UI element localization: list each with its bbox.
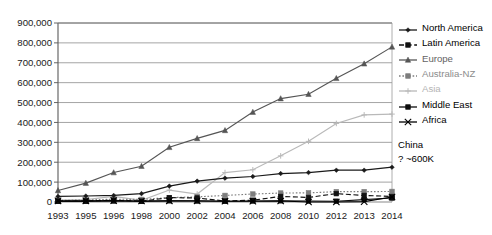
- data-point-marker: [139, 163, 144, 168]
- data-point-marker: [222, 128, 227, 133]
- x-axis-tick-label: 2008: [270, 210, 291, 221]
- data-point-marker: [306, 191, 311, 196]
- data-point-marker: [406, 104, 411, 109]
- series-line: [58, 47, 392, 191]
- data-point-marker: [389, 111, 395, 117]
- legend-item-label: Africa: [422, 115, 447, 125]
- legend-key-icon: [398, 37, 418, 49]
- data-point-marker: [306, 139, 312, 145]
- legend-item-middle-east[interactable]: Middle East: [398, 97, 492, 112]
- legend-key-icon: [398, 83, 418, 95]
- data-point-marker: [251, 174, 256, 179]
- legend-key-icon: [398, 114, 418, 126]
- x-axis-tick-label: 2000: [159, 210, 180, 221]
- data-point-marker: [406, 43, 411, 48]
- legend-item-label: Latin America: [422, 38, 480, 48]
- y-axis-tick-label: 100,000: [17, 177, 52, 188]
- data-point-marker: [195, 179, 200, 184]
- x-axis-tick-label: 2013: [353, 210, 374, 221]
- legend-key-icon: [398, 52, 418, 64]
- chart-screenshot: 0100,000200,000300,000400,000500,000600,…: [0, 0, 492, 235]
- y-axis-tick-label: 700,000: [17, 57, 52, 68]
- china-annotation-line1: China: [398, 138, 434, 152]
- data-point-marker: [278, 171, 283, 176]
- chart-legend: North AmericaLatin AmericaEuropeAustrali…: [398, 20, 492, 128]
- x-axis-tick-label: 2006: [242, 210, 263, 221]
- y-axis-tick-label: 900,000: [17, 17, 52, 28]
- legend-item-label: Middle East: [422, 100, 472, 110]
- data-point-marker: [167, 184, 172, 189]
- data-point-marker: [390, 189, 395, 194]
- x-axis-tick-label: 2014: [381, 210, 403, 221]
- legend-item-australia-nz[interactable]: Australia-NZ: [398, 66, 492, 81]
- x-axis-tick-label: 1995: [75, 210, 96, 221]
- data-point-marker: [278, 153, 284, 159]
- x-axis-tick-label: 1998: [131, 210, 152, 221]
- x-axis-tick-label: 1993: [47, 210, 68, 221]
- legend-item-label: Asia: [422, 84, 441, 94]
- x-axis-tick-label: 2004: [214, 210, 236, 221]
- y-axis-tick-label: 600,000: [17, 77, 52, 88]
- data-point-marker: [334, 75, 339, 80]
- data-point-marker: [139, 191, 144, 196]
- legend-key-icon: [398, 68, 418, 80]
- data-point-marker: [306, 170, 311, 175]
- legend-key-icon: [398, 22, 418, 34]
- data-point-marker: [334, 191, 339, 196]
- legend-item-label: North America: [422, 23, 483, 33]
- data-point-marker: [223, 176, 228, 181]
- legend-item-label: Australia-NZ: [422, 69, 475, 79]
- x-axis-tick-label: 2002: [186, 210, 207, 221]
- china-annotation-line2: ? ~600K: [398, 152, 434, 166]
- data-point-marker: [361, 61, 366, 66]
- china-annotation: China ? ~600K: [398, 138, 434, 165]
- legend-key-icon: [398, 99, 418, 111]
- data-point-marker: [389, 44, 394, 49]
- y-axis-tick-label: 300,000: [17, 137, 52, 148]
- data-point-marker: [406, 74, 411, 79]
- data-point-marker: [251, 192, 256, 197]
- data-point-marker: [334, 121, 340, 127]
- data-point-marker: [223, 193, 228, 198]
- x-axis-tick-label: 2012: [326, 210, 347, 221]
- y-axis-tick-label: 800,000: [17, 37, 52, 48]
- y-axis-tick-label: 0: [47, 196, 52, 207]
- data-point-marker: [250, 167, 256, 173]
- x-axis-tick-label: 1996: [103, 210, 124, 221]
- y-axis-tick-label: 400,000: [17, 117, 52, 128]
- y-axis-tick-label: 200,000: [17, 157, 52, 168]
- data-point-marker: [362, 168, 367, 173]
- legend-item-europe[interactable]: Europe: [398, 51, 492, 66]
- data-point-marker: [334, 199, 339, 204]
- legend-item-africa[interactable]: Africa: [398, 112, 492, 127]
- data-point-marker: [405, 88, 411, 94]
- data-point-marker: [390, 165, 395, 170]
- legend-item-latin-america[interactable]: Latin America: [398, 35, 492, 50]
- data-point-marker: [361, 112, 367, 118]
- y-axis-tick-label: 500,000: [17, 97, 52, 108]
- data-point-marker: [406, 27, 411, 32]
- legend-item-label: Europe: [422, 54, 453, 64]
- data-point-marker: [334, 168, 339, 173]
- x-axis-tick-label: 2010: [298, 210, 319, 221]
- data-point-marker: [278, 194, 283, 199]
- data-point-marker: [306, 91, 311, 96]
- legend-item-north-america[interactable]: North America: [398, 20, 492, 35]
- legend-item-asia[interactable]: Asia: [398, 82, 492, 97]
- series-asia: [55, 111, 395, 203]
